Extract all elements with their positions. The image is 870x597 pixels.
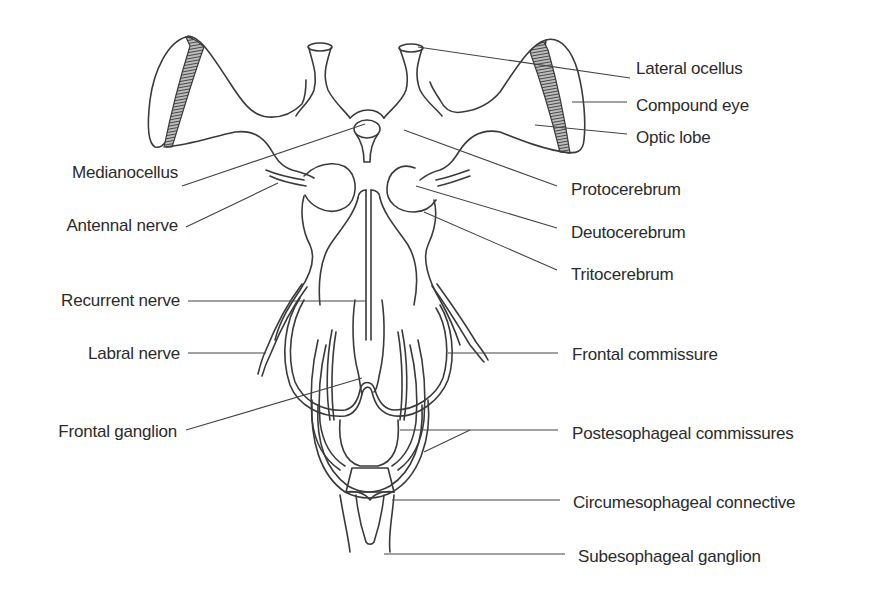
label-deutocerebrum: Deutocerebrum — [571, 224, 686, 241]
label-frontal-ganglion: Frontal ganglion — [58, 423, 177, 440]
label-medianocellus: Medianocellus — [72, 164, 178, 181]
right-lateral-ocellus — [384, 44, 442, 118]
label-circumesophageal-connective: Circumesophageal connective — [573, 494, 795, 511]
label-subesophageal-ganglion: Subesophageal ganglion — [578, 548, 761, 565]
right-compound-eye — [530, 39, 585, 153]
median-ocellus — [350, 110, 384, 162]
label-optic-lobe: Optic lobe — [636, 129, 711, 146]
label-frontal-commissure: Frontal commissure — [572, 346, 718, 363]
left-lateral-ocellus — [296, 43, 350, 118]
label-lateral-ocellus: Lateral ocellus — [636, 60, 743, 77]
label-recurrent-nerve: Recurrent nerve — [61, 292, 180, 309]
label-antennal-nerve: Antennal nerve — [66, 217, 178, 234]
label-compound-eye: Compound eye — [636, 97, 749, 114]
label-postesophageal-commissures: Postesophageal commissures — [572, 425, 794, 442]
brain-diagram: Lateral ocellus Compound eye Optic lobe … — [0, 0, 870, 597]
label-protocerebrum: Protocerebrum — [571, 181, 681, 198]
label-labral-nerve: Labral nerve — [88, 345, 180, 362]
label-tritocerebrum: Tritocerebrum — [571, 266, 674, 283]
left-compound-eye — [148, 37, 204, 147]
